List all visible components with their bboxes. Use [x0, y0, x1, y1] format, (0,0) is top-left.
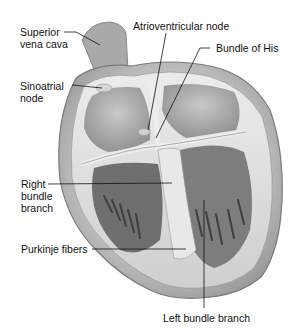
label-sinoatrial-node: Sinoatrial node: [20, 80, 64, 104]
label-bundle-of-his: Bundle of His: [216, 42, 278, 54]
right-atrium: [84, 87, 150, 152]
label-left-bundle-branch: Left bundle branch: [163, 312, 250, 324]
label-right-bundle-branch: Right bundle branch: [21, 178, 53, 214]
label-purkinje-fibers: Purkinje fibers: [21, 243, 88, 255]
label-atrioventricular-node: Atrioventricular node: [133, 20, 229, 32]
label-superior-vena-cava: Superior vena cava: [20, 26, 68, 50]
